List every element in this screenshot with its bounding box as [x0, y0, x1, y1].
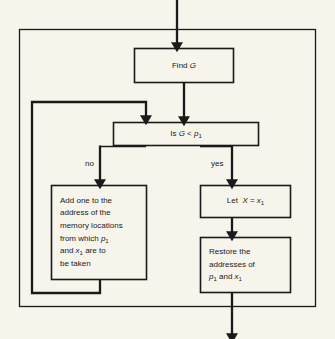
- no-branch-label: no: [85, 159, 94, 168]
- let-x-label: Let X = x1: [227, 195, 264, 208]
- find-g-label-wrap: Find G: [134, 48, 234, 83]
- flowchart-diagram: Find G Is G < p1 Add one to the address …: [0, 0, 335, 339]
- add-one-label-wrap: Add one to the address of the memory loc…: [51, 185, 147, 280]
- yes-branch-label: yes: [211, 159, 223, 168]
- restore-label: Restore the addresses of p1 and x1: [209, 246, 255, 284]
- add-one-label: Add one to the address of the memory loc…: [60, 195, 123, 271]
- restore-label-wrap: Restore the addresses of p1 and x1: [200, 237, 291, 293]
- find-g-label: Find G: [172, 60, 196, 72]
- decision-label-wrap: Is G < p1: [113, 122, 259, 146]
- let-x-label-wrap: Let X = x1: [200, 185, 291, 218]
- decision-label: Is G < p1: [170, 128, 202, 141]
